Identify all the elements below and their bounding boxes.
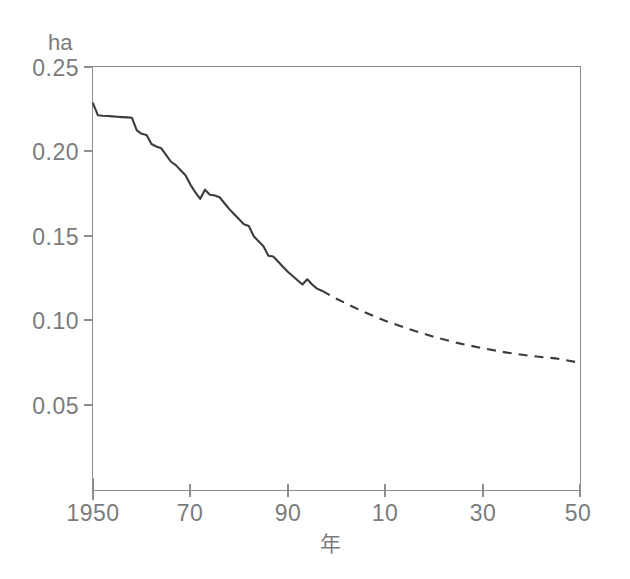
series-line-projection: [322, 291, 580, 363]
y-tick-label-0.15: 0.15: [32, 224, 79, 250]
line-chart: 0.25 0.20 0.15 0.10 0.05 ha 1950 70 90 1…: [0, 0, 630, 579]
x-tick-label-2030: 30: [470, 500, 497, 526]
x-tick-label-1990: 90: [275, 500, 302, 526]
y-axis-ticks: [84, 67, 93, 405]
chart-container: 0.25 0.20 0.15 0.10 0.05 ha 1950 70 90 1…: [0, 0, 630, 579]
x-axis-title: 年: [320, 532, 341, 555]
x-tick-label-2050: 50: [565, 500, 592, 526]
x-tick-label-1950: 1950: [66, 500, 119, 526]
x-tick-label-2010: 10: [372, 500, 399, 526]
y-tick-label-0.05: 0.05: [32, 393, 79, 419]
y-axis-labels: 0.25 0.20 0.15 0.10 0.05: [32, 55, 79, 419]
y-tick-label-0.25: 0.25: [32, 55, 79, 81]
x-axis-labels: 1950 70 90 10 30 50: [66, 500, 591, 526]
plot-frame: [93, 67, 581, 491]
series-line-actual: [93, 103, 322, 290]
x-axis-ticks: [93, 478, 580, 500]
y-tick-label-0.20: 0.20: [32, 139, 79, 165]
y-axis-unit-label: ha: [48, 30, 73, 55]
y-tick-label-0.10: 0.10: [32, 308, 79, 334]
x-tick-label-1970: 70: [177, 500, 204, 526]
